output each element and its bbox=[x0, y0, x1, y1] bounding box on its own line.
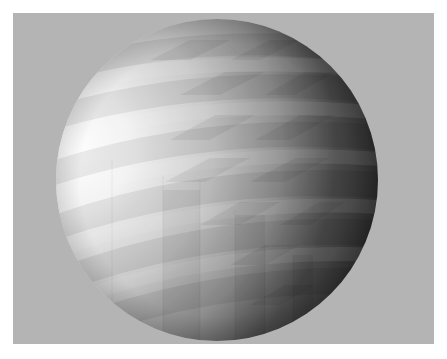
render-viewport bbox=[13, 13, 434, 344]
sphere-render bbox=[13, 13, 434, 344]
facet-layer bbox=[40, 19, 380, 344]
